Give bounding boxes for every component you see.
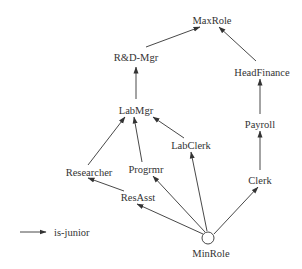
node-headfinance: HeadFinance	[234, 67, 290, 78]
minrole-circle-icon	[202, 232, 214, 244]
edge-rdmgr-to-maxrole	[146, 27, 200, 47]
role-hierarchy-diagram: MaxRole R&D-Mgr HeadFinance LabMgr Payro…	[0, 0, 302, 269]
edge-researcher-to-labmgr	[88, 117, 125, 165]
edge-progrmr-to-labmgr	[134, 117, 142, 162]
edge-labclerk-to-labmgr	[153, 117, 184, 138]
node-labmgr: LabMgr	[119, 105, 154, 116]
node-progrmr: Progrmr	[129, 164, 165, 175]
node-resasst: ResAsst	[121, 192, 156, 203]
node-researcher: Researcher	[66, 167, 113, 178]
edge-minrole-to-clerk	[214, 187, 258, 234]
edge-headfinance-to-maxrole	[219, 27, 256, 61]
node-payroll: Payroll	[245, 119, 275, 130]
legend: is-junior	[20, 227, 90, 238]
node-minrole: MinRole	[192, 248, 230, 259]
node-maxrole: MaxRole	[192, 15, 231, 26]
edge-resasst-to-researcher	[88, 178, 124, 191]
node-clerk: Clerk	[248, 175, 272, 186]
node-rdmgr: R&D-Mgr	[114, 52, 159, 63]
legend-label: is-junior	[54, 227, 90, 238]
node-labclerk: LabClerk	[171, 140, 211, 151]
